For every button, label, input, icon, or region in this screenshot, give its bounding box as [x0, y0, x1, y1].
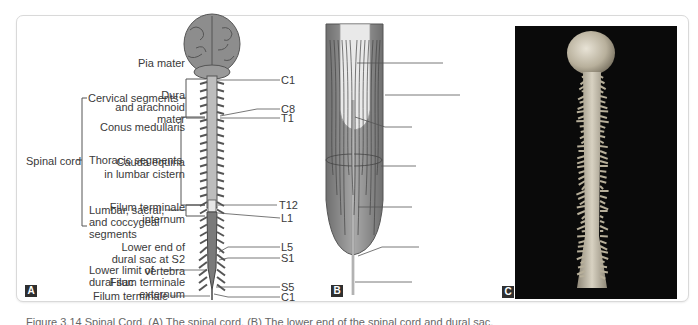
nerve-root	[200, 217, 207, 221]
specimen-brain	[567, 31, 615, 75]
nerve-root	[217, 187, 224, 189]
nerve-root	[200, 240, 207, 244]
label-filum-externum-line1: Filum terminale	[110, 276, 185, 289]
nerve-root	[217, 172, 224, 174]
specimen-nerve	[600, 91, 603, 93]
label-dura-line2: and arachnoid	[115, 101, 185, 114]
specimen-nerve	[580, 201, 585, 204]
nerve-root	[217, 120, 224, 122]
nerve-root	[200, 247, 207, 253]
level-label-coccygeal-c1: C1	[281, 291, 295, 304]
specimen-nerve	[600, 181, 606, 183]
specimen-nerve	[600, 136, 605, 137]
nerve-root	[200, 210, 207, 214]
specimen-nerve	[578, 196, 585, 199]
nerve-root	[217, 232, 224, 236]
specimen-nerve	[600, 196, 607, 198]
specimen-nerve	[579, 171, 585, 173]
nerve-root	[200, 180, 207, 182]
specimen-nerve	[600, 106, 607, 108]
specimen-nerve	[600, 116, 607, 118]
nerve-root	[200, 232, 207, 236]
specimen-nerve	[577, 146, 585, 147]
specimen-nerve	[581, 131, 585, 132]
label-conus-medullaris: Conus medullaris	[100, 121, 185, 134]
nerve-root	[217, 127, 224, 129]
nerve-root	[217, 217, 224, 221]
specimen-nerve	[600, 241, 607, 243]
specimen-nerve	[580, 126, 585, 127]
nerve-root	[200, 172, 207, 174]
specimen-nerve	[577, 226, 585, 229]
label-cauda-line2: in lumbar cistern	[104, 168, 185, 181]
nerve-root	[217, 135, 224, 137]
specimen-spinal-cord	[515, 26, 677, 299]
spinal-cord-diagram	[207, 76, 217, 300]
specimen-nerve	[577, 156, 585, 158]
specimen-nerve	[582, 231, 585, 232]
nerve-root	[217, 165, 224, 167]
specimen-nerve	[577, 166, 585, 167]
nerve-root	[200, 150, 207, 152]
specimen-nerve	[600, 246, 607, 250]
level-label-s1: S1	[281, 252, 294, 265]
nerve-root	[217, 97, 224, 99]
nerve-root	[217, 142, 224, 144]
nerve-root	[217, 112, 224, 114]
nerve-root	[200, 90, 207, 92]
specimen-nerve	[578, 246, 585, 247]
nerve-root	[200, 157, 207, 159]
specimen-nerve	[600, 121, 609, 122]
nerve-root	[200, 225, 207, 229]
label-filum-internum-line2: internum	[142, 213, 185, 226]
specimen-nerve	[582, 216, 585, 219]
specimen-nerve	[578, 176, 585, 179]
specimen-nerve	[600, 216, 603, 218]
specimen-nerve	[600, 96, 607, 98]
nerve-root	[200, 187, 207, 189]
specimen-nerve	[600, 266, 607, 267]
label-lower-end-line1: Lower end of	[121, 241, 185, 254]
specimen-nerve	[600, 226, 608, 230]
specimen-nerve	[600, 201, 605, 204]
nerve-root	[200, 165, 207, 167]
panel-b-badge: B	[331, 285, 343, 297]
label-filum-externum-line2: externum	[139, 288, 185, 301]
nerve-root	[217, 90, 224, 92]
nerve-root	[200, 120, 207, 122]
brain-icon	[184, 14, 240, 79]
nerve-root	[199, 262, 207, 268]
specimen-nerve	[600, 221, 604, 223]
specimen-nerve	[577, 206, 585, 207]
specimen-nerve	[581, 221, 585, 223]
nerve-root	[200, 112, 207, 114]
specimen-nerve	[600, 141, 604, 143]
figure-caption: Figure 3.14 Spinal Cord. (A) The spinal …	[26, 316, 493, 325]
specimen-nerve	[600, 171, 606, 172]
specimen-nerve	[600, 236, 608, 237]
nerve-root	[217, 240, 224, 244]
nerve-root	[200, 195, 207, 197]
label-filum-internum-line1: Filum terminale	[110, 201, 185, 214]
specimen-nerve	[600, 206, 608, 209]
specimen-nerve	[600, 161, 608, 163]
label-cauda-line1: Cauda equina	[116, 156, 185, 169]
specimen-nerve	[600, 176, 607, 178]
specimen-nerve	[578, 266, 585, 267]
level-label-l1: L1	[281, 212, 293, 225]
nerve-root	[200, 135, 207, 137]
specimen-nerve	[600, 146, 608, 147]
specimen-nerve	[577, 251, 585, 252]
panel-c-badge: C	[502, 286, 514, 298]
label-spinal-cord: Spinal cord	[26, 155, 81, 168]
nerve-root	[217, 150, 224, 152]
specimen-nerve	[577, 161, 585, 163]
nerve-root	[199, 255, 207, 261]
specimen-nerve	[600, 186, 603, 189]
specimen-nerve	[576, 191, 585, 195]
dural-sac-diagram	[326, 24, 383, 295]
label-lumbar-line3: segments	[89, 228, 137, 241]
nerve-root	[217, 225, 224, 229]
specimen-nerve	[600, 151, 607, 154]
nerve-root	[200, 82, 207, 84]
